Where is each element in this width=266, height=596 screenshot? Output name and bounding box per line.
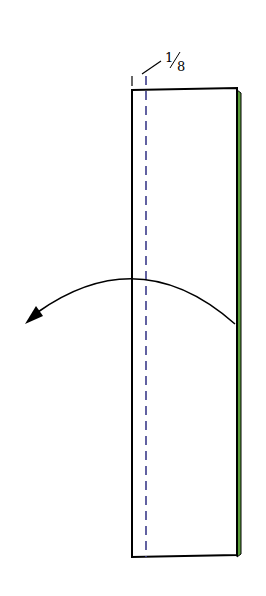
label-leader-line [142, 61, 161, 74]
arrowhead-icon [25, 306, 43, 324]
fraction-numerator: 1 [165, 50, 173, 65]
fraction-label: 1 8 [165, 50, 185, 74]
fold-diagram: 1 8 [0, 0, 266, 596]
fraction-denominator: 8 [177, 59, 185, 74]
paper-strip [132, 88, 237, 557]
